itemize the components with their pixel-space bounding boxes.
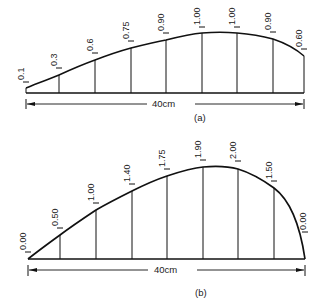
station-label: 1.90 [193,140,203,158]
figure-b-labels: 0.00 0.50 1.00 1.40 1.75 1.90 2.00 1.50 … [18,140,308,298]
figure-caption: (a) [194,112,206,123]
arrowhead-right [295,102,303,106]
station-label: 1.00 [227,7,237,25]
station-label: 0.00 [298,212,308,230]
station-label: 0.60 [294,29,304,47]
station-label: 0.75 [121,21,131,39]
diagram-canvas: 0.1 0.3 0.6 0.75 0.90 1.00 1.00 0.90 0.6… [0,0,324,299]
station-label: 1.00 [86,183,96,201]
station-label: 2.00 [228,141,238,159]
station-label: 1.50 [264,161,274,179]
station-label: 0.1 [16,67,26,80]
station-label: 1.40 [122,164,132,182]
dimension-label: 40cm [152,98,175,109]
station-label: 0.90 [156,13,166,31]
station-label: 1.75 [157,149,167,167]
figure-a [23,27,307,109]
station-label: 0.3 [49,53,59,66]
figure-caption: (b) [195,287,207,298]
station-label: 0.6 [85,38,95,51]
station-label: 0.90 [263,12,273,30]
station-label: 0.50 [50,208,60,226]
arrowhead-left [27,102,35,106]
figure-a-labels: 0.1 0.3 0.6 0.75 0.90 1.00 1.00 0.90 0.6… [16,7,304,123]
arrowhead-left [29,268,37,272]
station-label: 0.00 [18,232,28,250]
arrowhead-right [296,268,304,272]
dimension-label: 40cm [154,264,177,275]
profile-curve-a [26,32,304,88]
station-label: 1.00 [192,7,202,25]
